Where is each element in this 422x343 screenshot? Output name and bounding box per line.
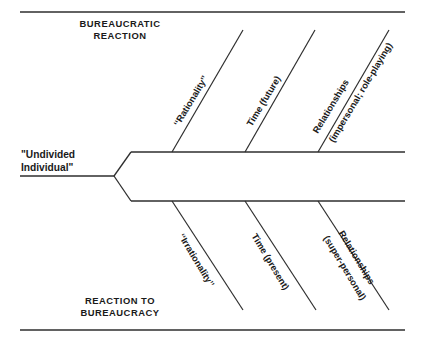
- caption-reaction-to-bureaucracy: REACTION TO BUREAUCRACY: [55, 295, 185, 319]
- branch-line-upper-1: [172, 30, 243, 152]
- stem-label-line-1: "Undivided: [21, 148, 75, 161]
- diagram-canvas: BUREAUCRATIC REACTION REACTION TO BUREAU…: [0, 0, 422, 343]
- stem-label: "Undivided Individual": [21, 148, 75, 175]
- fork-arm-lower: [114, 176, 131, 201]
- branch-line-lower-1: [172, 201, 243, 310]
- fork-arm-upper: [114, 152, 131, 176]
- caption-bottom-line-1: REACTION TO: [55, 295, 185, 307]
- caption-bureaucratic-reaction: BUREAUCRATIC REACTION: [55, 18, 185, 42]
- stem-label-line-2: Individual": [21, 161, 75, 174]
- caption-bottom-line-2: BUREAUCRACY: [55, 307, 185, 319]
- caption-top-line-2: REACTION: [55, 30, 185, 42]
- caption-top-line-1: BUREAUCRATIC: [55, 18, 185, 30]
- branch-line-lower-2: [245, 201, 316, 310]
- branch-line-upper-2: [245, 30, 315, 152]
